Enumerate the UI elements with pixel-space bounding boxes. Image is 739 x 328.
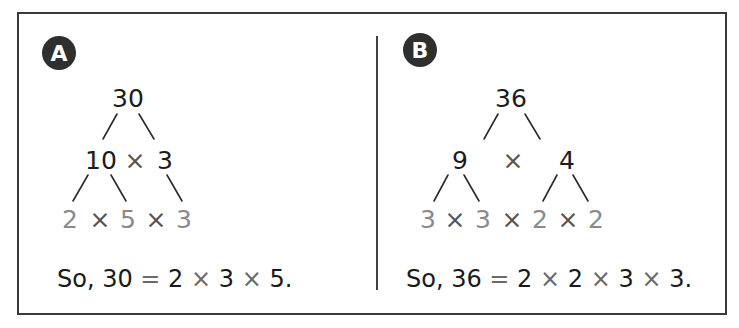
branch-line — [103, 114, 117, 139]
branch-line — [167, 175, 182, 201]
branch-line — [484, 114, 498, 139]
branch-line — [139, 114, 154, 139]
branch-line — [111, 175, 126, 201]
branch-line — [525, 114, 540, 139]
branch-line — [573, 175, 588, 201]
branch-line — [73, 175, 88, 201]
tree-branches — [0, 0, 739, 328]
branch-line — [434, 175, 448, 201]
branch-line — [464, 175, 479, 201]
branch-line — [543, 175, 557, 201]
